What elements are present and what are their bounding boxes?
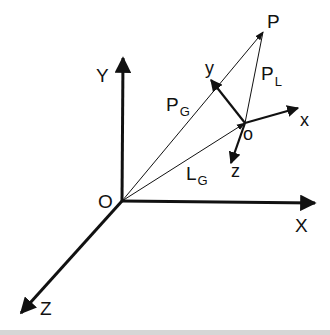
vector-l-global: [122, 123, 245, 201]
global-y-axis: [122, 58, 123, 201]
global-origin-label: O: [98, 191, 113, 212]
labels: O Y X Z P o x y z PG PL LG: [40, 11, 309, 319]
p-local-sub: L: [275, 74, 282, 89]
global-z-label: Z: [40, 298, 52, 319]
global-z-axis: [21, 201, 122, 313]
local-origin-label: o: [243, 124, 253, 144]
p-local-base: P: [261, 63, 274, 84]
global-x-label: X: [295, 215, 308, 236]
local-x-label: x: [300, 110, 309, 130]
l-global-label: LG: [186, 163, 208, 188]
global-x-axis: [122, 201, 315, 203]
p-global-sub: G: [180, 104, 190, 119]
coordinate-frames-diagram: O Y X Z P o x y z PG PL LG: [0, 0, 330, 335]
local-frame: [211, 80, 298, 163]
local-y-axis: [211, 80, 245, 123]
p-global-label: PG: [166, 94, 190, 119]
p-global-base: P: [166, 94, 179, 115]
local-x-axis: [245, 108, 298, 123]
l-global-sub: G: [198, 173, 208, 188]
l-global-base: L: [186, 163, 197, 184]
local-y-label: y: [205, 58, 214, 78]
p-local-label: PL: [261, 63, 282, 89]
footer-band: [0, 330, 330, 335]
local-z-label: z: [231, 161, 240, 181]
point-p-label: P: [267, 11, 280, 32]
global-y-label: Y: [96, 65, 109, 86]
